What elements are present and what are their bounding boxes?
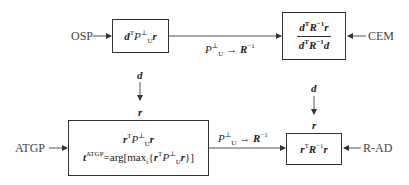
osp-box: dTP⊥Ur [112,19,169,53]
rad-formula: rTR−1r [300,144,328,155]
symbol-r-right: r [312,120,316,131]
cem-label: CEM [368,30,394,42]
atgp-formula-line1: rTP⊥Ur [123,134,154,145]
cem-box: dTR−1r dTR−1d [282,12,346,60]
top-transition-label: P⊥U → R−1 [205,44,255,55]
osp-label: OSP [71,30,93,42]
symbol-d-left: d [137,70,143,81]
symbol-d-right: d [311,83,317,94]
rad-box: rTR−1r [286,133,342,165]
rad-label: R-AD [363,142,392,154]
diagram-canvas: OSP dTP⊥Ur P⊥U → R−1 dTR−1r dTR−1d CEM d… [0,0,409,185]
atgp-box: rTP⊥Ur tATGP=arg[maxr{rTP⊥Ur}] [68,120,209,176]
atgp-formula-line2: tATGP=arg[maxr{rTP⊥Ur}] [83,152,194,163]
cem-formula: dTR−1r dTR−1d [297,22,332,51]
atgp-label: ATGP [15,142,45,154]
bottom-transition-label: P⊥U → R−1 [218,133,268,144]
symbol-r-left: r [138,107,142,118]
osp-formula: dTP⊥Ur [124,31,156,42]
